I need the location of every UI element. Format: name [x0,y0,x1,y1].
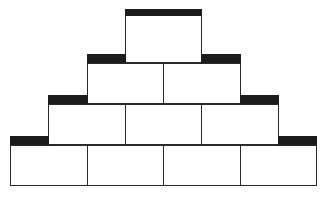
pyramid-block [87,145,165,186]
pyramid-block [240,145,318,186]
pyramid-block [163,63,241,104]
pyramid-block [10,145,88,186]
pyramid-block [87,63,165,104]
left-step-cap [48,95,87,104]
top-cap [125,9,203,16]
left-step-cap [10,136,49,145]
right-step-cap [201,54,240,63]
right-step-cap [278,136,317,145]
left-step-cap [87,54,126,63]
pyramid-block [163,145,241,186]
pyramid-block [125,15,203,63]
pyramid-block [125,104,203,145]
pyramid-block [201,104,279,145]
pyramid-block [48,104,126,145]
right-step-cap [240,95,279,104]
